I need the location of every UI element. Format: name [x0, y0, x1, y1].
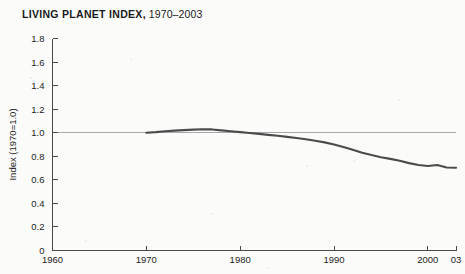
y-tick-label: 0.6	[31, 174, 44, 185]
paper-specks	[30, 58, 399, 268]
y-tick-label: 1.0	[31, 127, 44, 138]
data-series-group	[146, 129, 456, 168]
living-planet-index-chart: 00.20.40.60.81.01.21.41.61.8 19601970198…	[0, 0, 465, 274]
y-tick-label: 0.4	[31, 198, 44, 209]
x-tick-label: 1980	[230, 254, 251, 265]
y-tick-label: 0.2	[31, 221, 44, 232]
y-axis-ticks: 00.20.40.60.81.01.21.41.61.8	[31, 33, 57, 256]
y-axis-title: Index (1970=1.0)	[7, 108, 18, 180]
y-tick-label: 1.8	[31, 33, 44, 44]
y-tick-label: 0.8	[31, 151, 44, 162]
x-axis-ticks: 1960197019801990200003	[42, 246, 461, 265]
x-tick-label: 1990	[323, 254, 344, 265]
chart-page: LIVING PLANET INDEX, 1970–2003 00.20.40.…	[0, 0, 465, 274]
x-tick-label: 1970	[136, 254, 157, 265]
y-axis-title-text: Index (1970=1.0)	[7, 108, 18, 180]
y-tick-label: 1.4	[31, 80, 44, 91]
axis-lines	[53, 39, 457, 251]
x-tick-label: 2000	[417, 254, 438, 265]
x-tick-label: 1960	[42, 254, 63, 265]
x-tick-label: 03	[451, 254, 462, 265]
data-line-1	[146, 129, 456, 168]
y-tick-label: 1.6	[31, 57, 44, 68]
y-tick-label: 1.2	[31, 104, 44, 115]
